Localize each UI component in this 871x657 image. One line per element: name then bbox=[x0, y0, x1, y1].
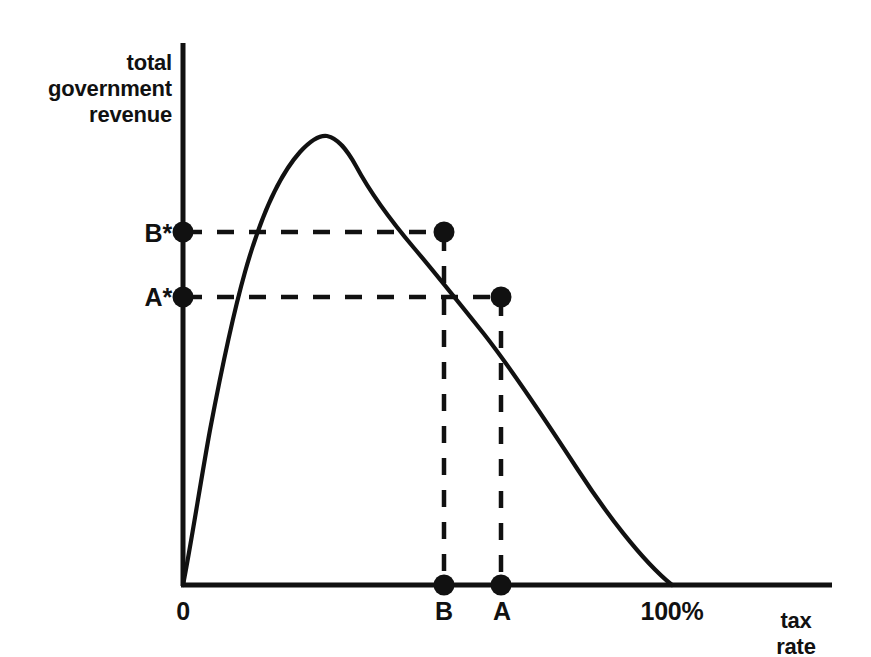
marker-point-a bbox=[491, 287, 512, 308]
marker-b-axis bbox=[434, 575, 455, 596]
x-axis-tick-label-a: A bbox=[477, 597, 527, 627]
y-axis-title: total government revenue bbox=[0, 50, 172, 128]
laffer-curve-figure: total government revenue B* A* 0 B A 100… bbox=[0, 0, 871, 657]
y-level-label-bstar: B* bbox=[96, 219, 172, 249]
marker-astar-axis bbox=[173, 287, 194, 308]
marker-point-b bbox=[434, 222, 455, 243]
y-level-label-astar: A* bbox=[96, 283, 172, 313]
x-axis-origin-label: 0 bbox=[158, 597, 208, 627]
x-axis-tick-label-b: B bbox=[419, 597, 469, 627]
x-axis-tick-label-max: 100% bbox=[619, 597, 725, 627]
laffer-curve-path bbox=[183, 136, 672, 585]
marker-bstar-axis bbox=[173, 222, 194, 243]
marker-a-axis bbox=[491, 575, 512, 596]
x-axis-title: tax rate bbox=[746, 608, 846, 657]
